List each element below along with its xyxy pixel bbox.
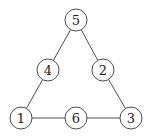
node-top: 5	[65, 9, 87, 31]
node-label: 3	[127, 111, 135, 126]
node-mid-right: 2	[92, 59, 114, 81]
node-bottom-mid: 6	[65, 107, 87, 129]
node-mid-left: 4	[37, 59, 59, 81]
node-label: 6	[72, 111, 80, 126]
node-bottom-left: 1	[10, 107, 32, 129]
node-bottom-right: 3	[120, 107, 142, 129]
node-label: 4	[44, 63, 52, 78]
triangle-diagram: 5 4 2 1 6 3	[0, 0, 149, 138]
nodes: 5 4 2 1 6 3	[10, 9, 142, 129]
node-label: 2	[99, 63, 107, 78]
node-label: 1	[17, 111, 25, 126]
node-label: 5	[72, 13, 80, 28]
